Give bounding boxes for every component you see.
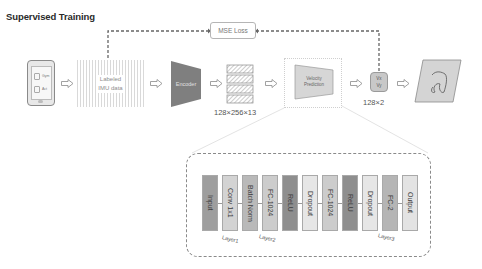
block-label: ReLU xyxy=(347,194,354,212)
block-label: Dropout xyxy=(307,191,314,216)
network-block-relu: ReLU xyxy=(282,175,298,231)
network-block-fc1024: FC-1024 xyxy=(262,175,278,231)
block-label: Input xyxy=(207,195,214,211)
block-label: Batch Norm xyxy=(247,185,254,222)
network-block-dropout: Dropout xyxy=(362,175,378,231)
block-label: FC-1024 xyxy=(267,189,274,216)
block-label: FC-1024 xyxy=(327,189,334,216)
block-label: FC-2 xyxy=(387,195,394,211)
network-block-fc2: FC-2 xyxy=(382,175,398,231)
block-label: Conv 1x1 xyxy=(227,188,234,218)
network-block-batchnorm: Batch Norm xyxy=(242,175,258,231)
network-block-relu: ReLU xyxy=(342,175,358,231)
block-label: Output xyxy=(407,192,414,213)
block-label: Dropout xyxy=(367,191,374,216)
network-block-conv: Conv 1x1 xyxy=(222,175,238,231)
network-block-input: Input xyxy=(202,175,218,231)
network-block-dropout: Dropout xyxy=(302,175,318,231)
network-block-output: Output xyxy=(402,175,418,231)
block-label: ReLU xyxy=(287,194,294,212)
network-block-fc1024: FC-1024 xyxy=(322,175,338,231)
